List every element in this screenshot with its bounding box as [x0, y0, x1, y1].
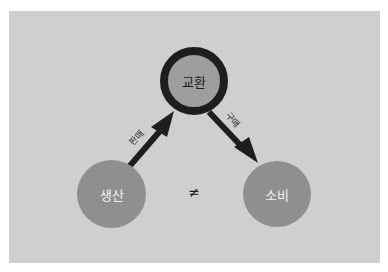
node-exchange-label: 교환	[182, 72, 206, 91]
node-production: 생산	[77, 160, 146, 228]
node-production-label: 생산	[100, 185, 124, 204]
node-consumption-label: 소비	[265, 185, 289, 204]
node-exchange: 교환	[160, 47, 228, 115]
arrows-layer	[0, 0, 388, 272]
node-consumption: 소비	[243, 161, 311, 227]
not-equal-symbol: ≠	[186, 184, 202, 200]
